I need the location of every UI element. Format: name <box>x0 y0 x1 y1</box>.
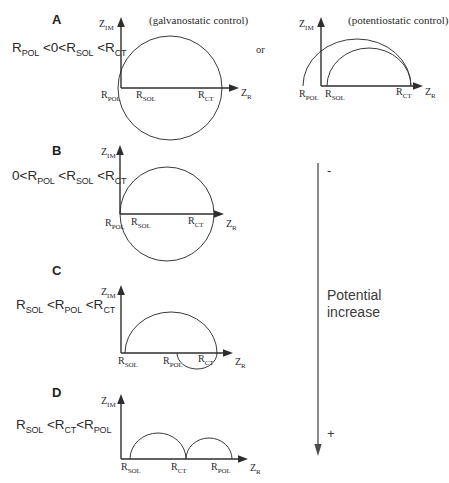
potential-axis-arrowhead <box>314 444 321 456</box>
potential-top-sign: - <box>327 163 331 178</box>
potential-bottom-sign: + <box>327 426 335 441</box>
potential-label-line2: increase <box>327 304 380 321</box>
potential-label-line1: Potential <box>327 287 381 304</box>
